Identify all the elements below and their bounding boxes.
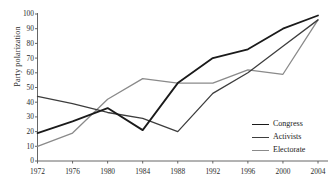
x-tick-1976: 1976 <box>58 168 88 175</box>
y-tick-70: 70 <box>12 55 34 62</box>
x-tick-2000: 2000 <box>268 168 298 175</box>
legend-swatch-activists <box>252 137 269 138</box>
legend-swatch-congress <box>252 124 269 125</box>
y-tick-20: 20 <box>12 128 34 135</box>
legend-swatch-electorate <box>252 150 269 151</box>
x-tick-1996: 1996 <box>233 168 263 175</box>
y-tick-100: 100 <box>12 10 34 17</box>
y-tick-60: 60 <box>12 69 34 76</box>
x-tick-1984: 1984 <box>128 168 158 175</box>
y-tick-0: 0 <box>12 157 34 164</box>
party-polarization-chart: Party polarization 010203040506070809010… <box>0 0 334 184</box>
y-tick-50: 50 <box>12 84 34 91</box>
legend-label-electorate: Electorate <box>273 146 305 154</box>
legend-item-activists[interactable]: Activists <box>252 131 332 143</box>
series-line-activists <box>38 20 319 132</box>
series-line-congress <box>38 15 319 133</box>
x-tick-1980: 1980 <box>93 168 123 175</box>
chart-legend: Congress Activists Electorate <box>252 118 332 157</box>
y-tick-30: 30 <box>12 113 34 120</box>
y-axis-tick-labels: 0102030405060708090100 <box>0 0 34 184</box>
y-tick-40: 40 <box>12 99 34 106</box>
x-tick-1988: 1988 <box>163 168 193 175</box>
legend-item-congress[interactable]: Congress <box>252 118 332 130</box>
x-tick-2004: 2004 <box>303 168 333 175</box>
x-tick-1972: 1972 <box>23 168 53 175</box>
y-tick-10: 10 <box>12 143 34 150</box>
legend-label-congress: Congress <box>273 120 303 128</box>
legend-label-activists: Activists <box>273 133 301 141</box>
legend-item-electorate[interactable]: Electorate <box>252 144 332 156</box>
y-tick-80: 80 <box>12 40 34 47</box>
x-tick-1992: 1992 <box>198 168 228 175</box>
y-tick-90: 90 <box>12 25 34 32</box>
